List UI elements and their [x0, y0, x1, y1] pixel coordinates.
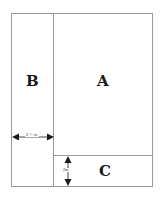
outer-border-top [11, 13, 153, 14]
outer-border-left [11, 13, 12, 187]
region-label-c: C [99, 164, 111, 179]
region-label-a: A [97, 74, 109, 89]
region-label-b: B [26, 74, 39, 89]
dimension-b-width: 2 ½ in. [25, 133, 39, 137]
dimension-c-height: 2in. [63, 168, 69, 172]
outer-border-right [152, 13, 153, 187]
divider-b-a [53, 13, 54, 187]
outer-border-bottom [11, 186, 153, 187]
